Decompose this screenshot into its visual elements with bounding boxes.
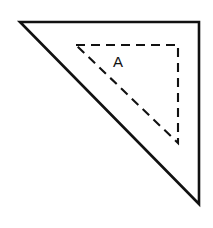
geometry-diagram: A (0, 0, 213, 228)
region-label-a: A (113, 53, 123, 70)
figure-canvas: A (0, 0, 213, 228)
